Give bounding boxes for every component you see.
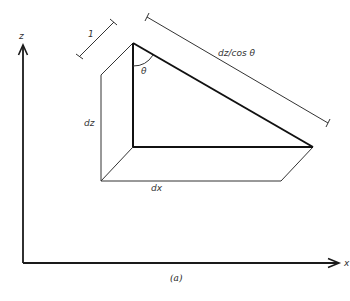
- width-label: dx: [151, 183, 163, 193]
- x-axis-label: x: [343, 258, 350, 268]
- height-label: dz: [84, 118, 95, 128]
- unit-length-dimension: [76, 19, 117, 59]
- angle-label: θ: [141, 66, 147, 76]
- z-axis: [19, 45, 28, 263]
- angle-arc: [133, 55, 153, 66]
- wedge-diagram: z x θ 1 dz/cos θ dz dx (a): [0, 0, 350, 301]
- hypotenuse-label: dz/cos θ: [218, 48, 255, 58]
- x-axis: [23, 259, 339, 268]
- unit-length-label: 1: [88, 29, 94, 39]
- hypotenuse-dimension: [145, 13, 330, 127]
- figure-caption: (a): [170, 273, 183, 283]
- z-axis-label: z: [18, 31, 24, 41]
- wedge-front-triangle: [133, 43, 313, 147]
